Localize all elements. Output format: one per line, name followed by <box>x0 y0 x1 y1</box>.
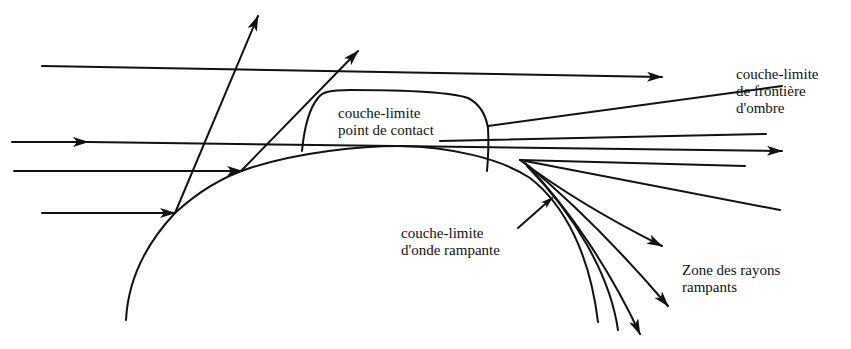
incident-ray-top <box>42 66 662 77</box>
creeping-ray-curve-inner <box>527 166 618 330</box>
label-creeping-rays-zone: Zone des rayons rampants <box>682 262 780 296</box>
diffraction-diagram <box>0 0 851 349</box>
label-line: point de contact <box>338 122 434 139</box>
label-line: d'onde rampante <box>401 242 500 259</box>
label-shadow-boundary-layer: couche-limite de frontière d'ombre <box>736 66 818 117</box>
label-line: rampants <box>682 279 780 296</box>
label-line: couche-limite <box>338 105 434 122</box>
shadow-ray-4 <box>520 160 745 166</box>
label-contact-point-layer: couche-limite point de contact <box>338 105 434 139</box>
label-line: couche-limite <box>736 66 818 83</box>
label-line: d'ombre <box>736 100 818 117</box>
label-line: Zone des rayons <box>682 262 780 279</box>
label-line: couche-limite <box>401 225 500 242</box>
label-creeping-wave-layer: couche-limite d'onde rampante <box>401 225 500 259</box>
convex-body-surface <box>126 146 598 322</box>
creeping-wave-pointer <box>518 198 552 228</box>
label-line: de frontière <box>736 83 818 100</box>
